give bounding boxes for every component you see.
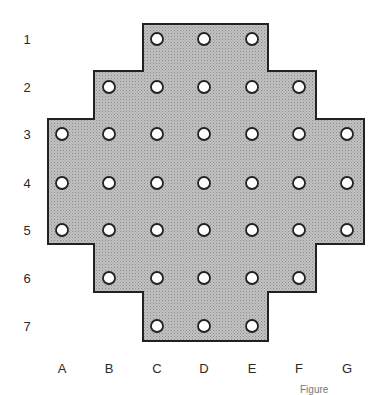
column-label: F: [295, 361, 303, 376]
hole-C2: [151, 81, 163, 93]
hole-C4: [151, 177, 163, 189]
hole-A3: [56, 128, 68, 140]
row-label: 2: [23, 80, 30, 95]
hole-B5: [103, 224, 115, 236]
hole-F4: [293, 177, 305, 189]
hole-C6: [151, 272, 163, 284]
row-label: 7: [23, 319, 30, 334]
hole-E4: [246, 177, 258, 189]
column-label: E: [248, 361, 257, 376]
row-label: 5: [23, 223, 30, 238]
hole-F6: [293, 272, 305, 284]
row-label: 4: [23, 176, 30, 191]
hole-A5: [56, 224, 68, 236]
hole-G5: [341, 224, 353, 236]
hole-D4: [198, 177, 210, 189]
column-label: D: [199, 361, 208, 376]
hole-E2: [246, 81, 258, 93]
hole-E7: [246, 320, 258, 332]
column-label: B: [105, 361, 114, 376]
hole-F3: [293, 128, 305, 140]
hole-E5: [246, 224, 258, 236]
hole-G3: [341, 128, 353, 140]
hole-B2: [103, 81, 115, 93]
hole-D7: [198, 320, 210, 332]
hole-E3: [246, 128, 258, 140]
row-label: 3: [23, 127, 30, 142]
hole-E1: [246, 33, 258, 45]
hole-B4: [103, 177, 115, 189]
row-label: 6: [23, 271, 30, 286]
hole-C5: [151, 224, 163, 236]
hole-C1: [151, 33, 163, 45]
hole-D3: [198, 128, 210, 140]
hole-F2: [293, 81, 305, 93]
hole-F5: [293, 224, 305, 236]
hole-D6: [198, 272, 210, 284]
column-label: G: [342, 361, 352, 376]
hole-E6: [246, 272, 258, 284]
hole-B6: [103, 272, 115, 284]
hole-D5: [198, 224, 210, 236]
row-label: 1: [23, 32, 30, 47]
hole-D2: [198, 81, 210, 93]
column-label: A: [58, 361, 67, 376]
column-label: C: [152, 361, 161, 376]
hole-A4: [56, 177, 68, 189]
hole-B3: [103, 128, 115, 140]
hole-C3: [151, 128, 163, 140]
hole-G4: [341, 177, 353, 189]
hole-D1: [198, 33, 210, 45]
figure-caption: Figure: [300, 384, 328, 395]
hole-C7: [151, 320, 163, 332]
